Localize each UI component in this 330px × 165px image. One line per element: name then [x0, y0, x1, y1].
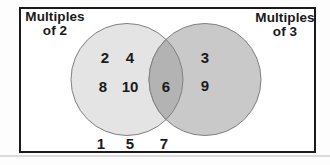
value-left-only-4: 10 [122, 78, 139, 95]
right-set-label: Multiples of 3 [253, 11, 317, 39]
value-right-only-2: 9 [201, 77, 209, 94]
right-set-label-line2: of 3 [253, 25, 317, 39]
value-left-only-1: 2 [101, 49, 109, 66]
value-left-only-3: 8 [99, 78, 107, 95]
value-outside-2: 5 [126, 135, 134, 152]
value-right-only-1: 3 [201, 49, 209, 66]
left-set-label-line1: Multiples [23, 10, 87, 24]
left-set-label-line2: of 2 [23, 24, 87, 38]
right-set-label-line1: Multiples [253, 11, 317, 25]
left-set-label: Multiples of 2 [23, 10, 87, 38]
value-outside-1: 1 [97, 135, 105, 152]
value-left-only-2: 4 [126, 49, 134, 66]
venn-diagram-panel: Multiples of 2 Multiples of 3 2 4 8 10 6… [0, 0, 330, 165]
value-outside-3: 7 [160, 135, 168, 152]
value-intersection-1: 6 [162, 78, 170, 95]
scan-shadow-line [0, 155, 330, 157]
